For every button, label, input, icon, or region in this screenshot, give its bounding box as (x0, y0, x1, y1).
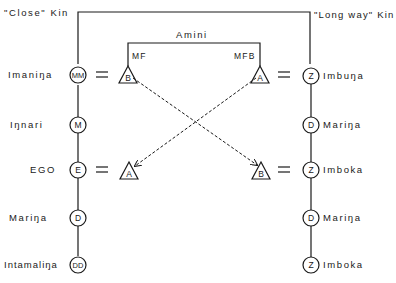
left-name-1: Iŋnari (10, 120, 43, 130)
header-close-kin: "Close" Kin (4, 8, 69, 18)
right-name-4: Imboka (323, 260, 364, 270)
svg-text:B: B (125, 73, 131, 83)
left-name-0: Imaniŋa (8, 70, 53, 80)
svg-text:A: A (126, 169, 132, 179)
right-name-0: Imbuŋa (323, 71, 364, 81)
amini-label: Amini (176, 30, 208, 40)
right-name-3: Mariŋa (323, 213, 362, 223)
mfb-label: MFB (234, 51, 256, 61)
right-name-1: Mariŋa (323, 120, 362, 130)
svg-text:DD: DD (73, 261, 84, 270)
mf-label: MF (132, 51, 147, 61)
svg-text:M: M (74, 120, 81, 130)
svg-text:E: E (75, 165, 81, 175)
transfer-arrows (133, 78, 257, 166)
right-name-2: Imboka (323, 165, 364, 175)
svg-text:Z: Z (308, 260, 313, 270)
svg-text:B: B (258, 169, 264, 179)
svg-text:Z: Z (308, 71, 313, 81)
svg-text:Z: Z (308, 165, 313, 175)
svg-text:D: D (308, 120, 314, 130)
svg-text:D: D (308, 213, 314, 223)
marriage-signs (96, 72, 290, 172)
left-name-3: Mariŋa (9, 213, 48, 223)
svg-text:A: A (257, 73, 263, 83)
left-name-2: EGO (30, 165, 56, 175)
header-long-way-kin: "Long way" Kin (314, 10, 395, 20)
svg-text:D: D (75, 213, 81, 223)
kinship-diagram: MM M E D DD Z D Z D Z B A A B (0, 0, 396, 283)
left-name-4: Intamaliŋa (4, 260, 58, 270)
descent-frame (78, 12, 311, 257)
svg-text:MM: MM (72, 71, 85, 80)
